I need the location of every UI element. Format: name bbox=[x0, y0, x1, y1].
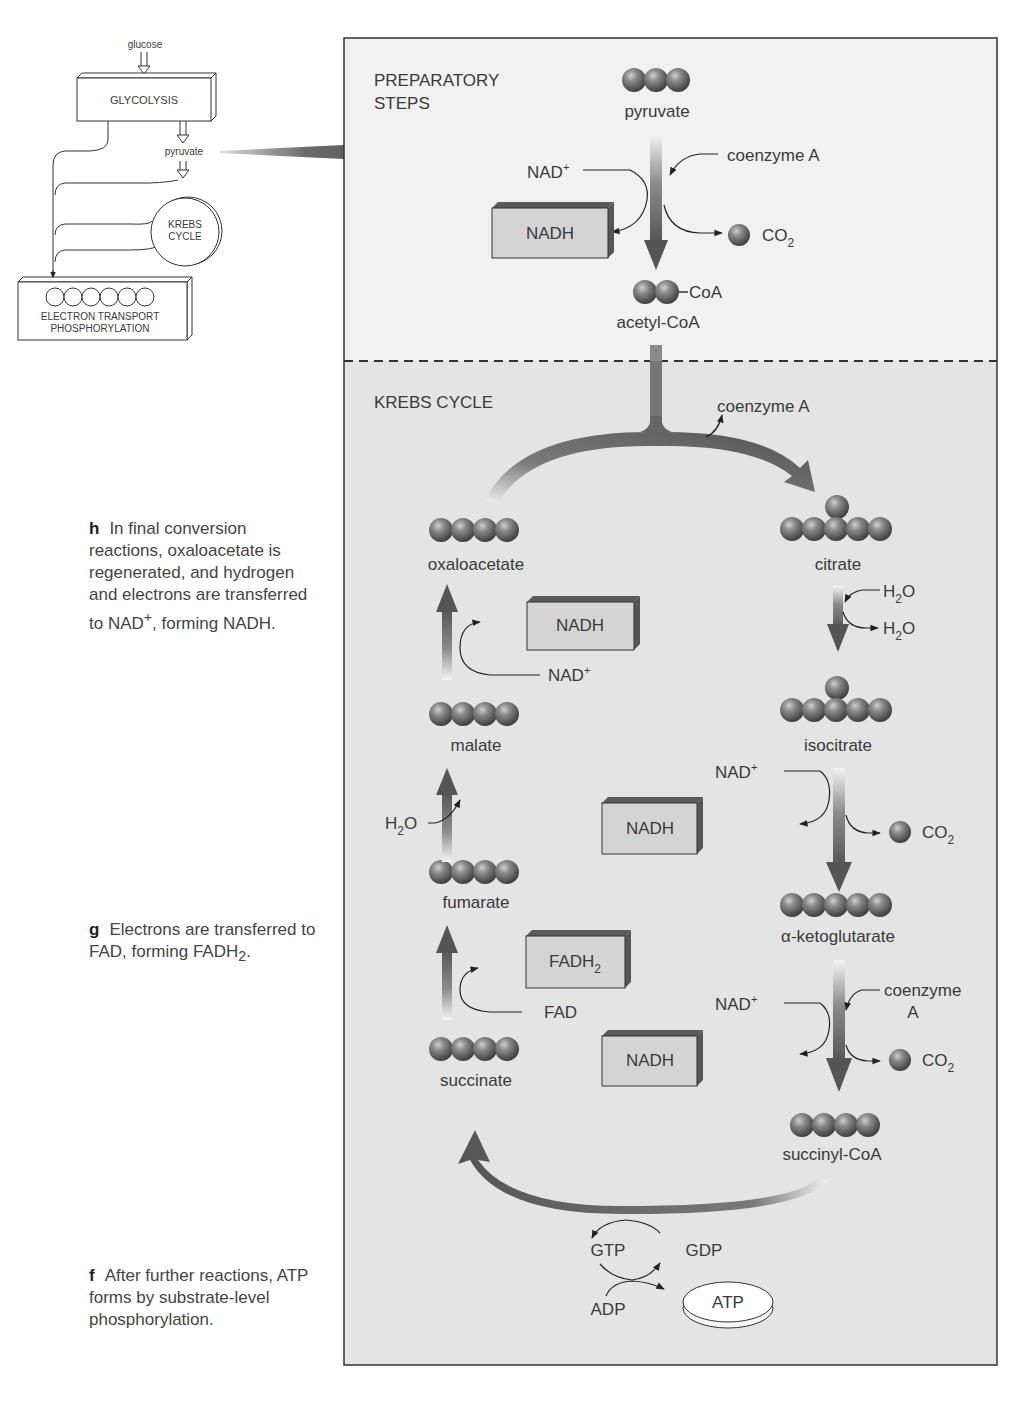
caption-f-letter: f bbox=[89, 1266, 95, 1285]
isocitrate-label: isocitrate bbox=[804, 736, 872, 755]
nadh-akg-label: NADH bbox=[626, 1051, 674, 1070]
overview-glycolysis-label: GLYCOLYSIS bbox=[110, 94, 178, 106]
prep-nadh-label: NADH bbox=[526, 224, 574, 243]
coenzyme-akg-label-1: coenzyme bbox=[884, 981, 961, 1000]
prep-title-line1: PREPARATORY bbox=[374, 71, 499, 90]
co2-molecule-icon-1 bbox=[889, 821, 911, 843]
alpha-ketoglutarate-label: α-ketoglutarate bbox=[781, 927, 895, 946]
caption-g: gElectrons are transferred to FAD, formi… bbox=[89, 919, 319, 967]
succinyl-coa-label: succinyl-CoA bbox=[782, 1145, 882, 1164]
coenzyme-akg-label-2: A bbox=[907, 1003, 919, 1022]
overview-glucose-label: glucose bbox=[128, 39, 163, 50]
krebs-coenzyme-a-label: coenzyme A bbox=[717, 397, 810, 416]
citrate-label: citrate bbox=[815, 555, 861, 574]
caption-h-letter: h bbox=[89, 519, 99, 538]
fad-label: FAD bbox=[544, 1003, 577, 1022]
krebs-cycle-diagram: glucose GLYCOLYSIS pyruvate KREBS CYCLE … bbox=[0, 0, 1017, 1403]
caption-f: fAfter further reactions, ATP forms by s… bbox=[89, 1265, 319, 1331]
caption-f-text: After further reactions, ATP forms by su… bbox=[89, 1266, 308, 1329]
caption-g-text: Electrons are transferred to FAD, formin… bbox=[89, 920, 315, 961]
co2-molecule-icon bbox=[728, 224, 750, 246]
main-panel bbox=[344, 38, 997, 1365]
adp-label: ADP bbox=[591, 1300, 626, 1319]
fumarate-label: fumarate bbox=[442, 893, 509, 912]
overview-pyruvate-label: pyruvate bbox=[165, 146, 204, 157]
succinate-label: succinate bbox=[440, 1071, 512, 1090]
oxaloacetate-label: oxaloacetate bbox=[428, 555, 524, 574]
prep-acetyl-coa-label: acetyl-CoA bbox=[616, 313, 700, 332]
overview-diagram bbox=[18, 52, 393, 340]
prep-coa-tag: CoA bbox=[689, 283, 723, 302]
alpha-ketoglutarate-molecule-icon bbox=[780, 893, 892, 917]
overview-etp-label-2: PHOSPHORYLATION bbox=[50, 323, 149, 334]
overview-krebs-label-2: CYCLE bbox=[168, 231, 202, 242]
nadh-isocitrate-label: NADH bbox=[626, 819, 674, 838]
caption-h: hIn final conversion reactions, oxaloace… bbox=[89, 518, 319, 635]
nadh-malate-label: NADH bbox=[556, 616, 604, 635]
caption-g-letter: g bbox=[89, 920, 99, 939]
prep-pyruvate-label: pyruvate bbox=[624, 102, 689, 121]
krebs-title: KREBS CYCLE bbox=[374, 393, 493, 412]
overview-krebs-label-1: KREBS bbox=[168, 219, 202, 230]
prep-coenzyme-a-label: coenzyme A bbox=[727, 146, 820, 165]
overview-etp-label-1: ELECTRON TRANSPORT bbox=[41, 311, 160, 322]
glucose-arrow-icon bbox=[138, 52, 150, 74]
malate-label: malate bbox=[450, 736, 501, 755]
gdp-label: GDP bbox=[686, 1241, 723, 1260]
atp-label: ATP bbox=[712, 1293, 744, 1312]
co2-molecule-icon-2 bbox=[889, 1049, 911, 1071]
pyruvate-molecule-icon bbox=[622, 68, 690, 92]
gtp-label: GTP bbox=[591, 1241, 626, 1260]
prep-title-line2: STEPS bbox=[374, 94, 430, 113]
